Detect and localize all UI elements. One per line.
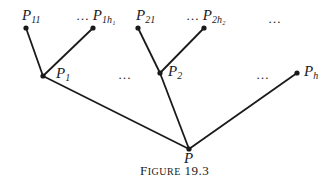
label-subscript: 1h₁: [102, 14, 115, 25]
label-letter: P: [168, 63, 177, 79]
edge-P11-P1: [26, 28, 43, 76]
label-p1: P1: [56, 66, 70, 81]
label-ph: Ph: [304, 64, 318, 79]
node-P21: [135, 25, 140, 30]
node-Ph: [294, 70, 299, 75]
caption-initial: F: [140, 163, 148, 178]
label-p1h1: … P1h₁: [76, 8, 115, 23]
label-p11: P11: [22, 8, 40, 23]
label-letter: P: [304, 63, 313, 79]
node-P1h1: [90, 25, 95, 30]
caption-number: 19.3: [185, 163, 210, 178]
edge-Ph-P: [189, 73, 297, 149]
label-subscript: 1: [65, 72, 70, 83]
node-P11: [23, 25, 28, 30]
tree-diagram: [0, 0, 332, 186]
label-subscript: 21: [145, 14, 155, 25]
node-P2: [157, 70, 162, 75]
label-subscript: 2: [177, 70, 182, 81]
edge-P1-P: [43, 76, 189, 149]
ellipsis: …: [186, 8, 199, 23]
label-subscript: 11: [31, 14, 40, 25]
ellipsis-mid-left: …: [118, 68, 132, 81]
label-p21: P21: [136, 8, 155, 23]
label-subscript: h: [313, 70, 318, 81]
edge-P21-P2: [138, 28, 160, 73]
label-p2: P2: [168, 64, 182, 79]
caption-smallcaps: IGURE: [148, 166, 181, 177]
node-P2h2: [201, 25, 206, 30]
label-letter: P: [136, 7, 145, 23]
node-P1: [40, 73, 45, 78]
label-p2h2: … P2h₂: [186, 8, 225, 23]
ellipsis-mid-right: …: [256, 68, 270, 81]
ellipsis: …: [76, 8, 89, 23]
label-letter: P: [93, 7, 102, 23]
figure-caption: FIGURE 19.3: [140, 163, 209, 179]
ellipsis-top-right: …: [268, 12, 282, 25]
label-letter: P: [203, 7, 212, 23]
label-subscript: 2h₂: [212, 14, 225, 25]
label-letter: P: [56, 65, 65, 81]
label-letter: P: [22, 7, 31, 23]
